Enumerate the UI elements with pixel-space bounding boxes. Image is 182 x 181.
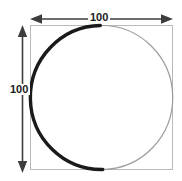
diagram-canvas: 100 100: [0, 0, 182, 181]
arrowhead-down-icon: [18, 161, 27, 173]
height-dimension-arrow: [18, 25, 27, 173]
width-dimension-label: 100: [88, 12, 110, 23]
circle-highlight-arc: [30, 26, 102, 170]
arrowhead-up-icon: [18, 25, 27, 37]
height-dimension-label: 100: [8, 84, 30, 95]
circle-light-arc: [100, 25, 172, 169]
arrowhead-right-icon: [161, 14, 173, 24]
arrowhead-left-icon: [30, 14, 42, 24]
